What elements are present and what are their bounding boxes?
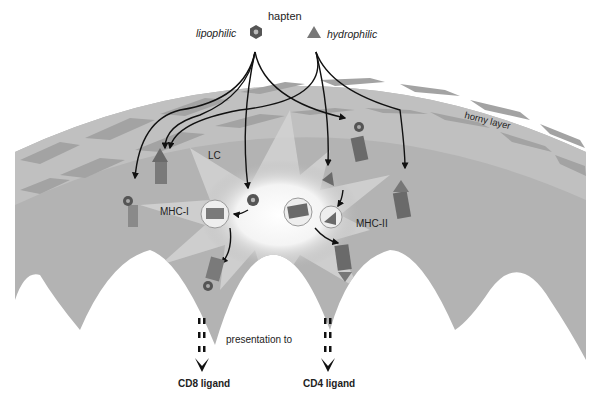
legend-lipophilic-label: lipophilic [196, 27, 237, 39]
presentation-label: presentation to [226, 334, 293, 345]
legend-hydrophilic-icon [307, 26, 321, 38]
mhc2-label: MHC-II [356, 218, 388, 229]
cd8-ligand-label: CD8 ligand [178, 378, 230, 389]
cd4-ligand-label: CD4 ligand [303, 378, 355, 389]
title-hapten: hapten [268, 10, 302, 22]
mhc1-processing-circle [201, 200, 229, 228]
hapten-presentation-diagram: hapten lipophilic hydrophilic horny laye… [0, 0, 602, 401]
cd4-dashed-arrow [321, 318, 335, 372]
legend-lipophilic-icon [250, 25, 262, 39]
mhc1-label: MHC-I [160, 206, 189, 217]
hapten-lipophilic-center [247, 194, 259, 206]
legend-hydrophilic-label: hydrophilic [327, 28, 378, 40]
lc-label: LC [208, 150, 221, 161]
diagram-svg: hapten lipophilic hydrophilic horny laye… [0, 0, 602, 401]
